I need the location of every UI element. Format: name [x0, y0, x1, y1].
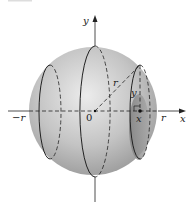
sphere-diagram: y x 0 −r r r y x	[0, 0, 192, 213]
y-axis-arrow-icon	[93, 15, 98, 22]
origin-label: 0	[86, 112, 92, 123]
x-axis-label: x	[180, 113, 186, 124]
x-position-label: x	[136, 113, 142, 124]
neg-r-label: −r	[12, 112, 26, 123]
height-label: y	[130, 87, 137, 98]
origin-point	[94, 110, 96, 112]
pos-r-label: r	[161, 112, 167, 123]
top-bar	[8, 0, 32, 2]
y-axis-label: y	[82, 15, 89, 26]
